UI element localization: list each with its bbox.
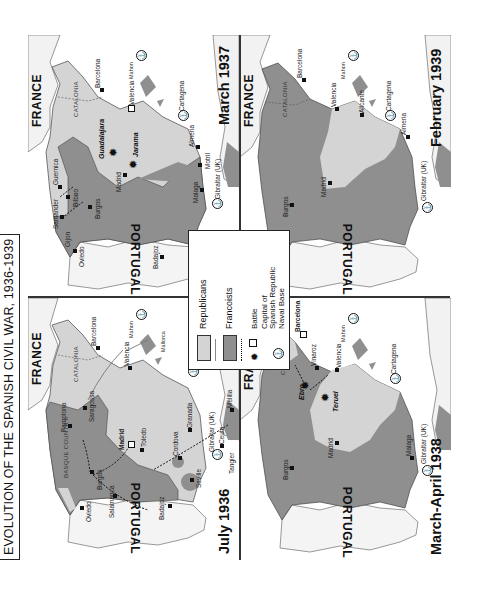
city-label: Pamplona	[60, 403, 67, 432]
city-marker	[100, 88, 104, 92]
period-label: July 1936	[216, 489, 232, 554]
city-marker	[198, 163, 202, 167]
city-marker	[66, 195, 70, 199]
city-marker	[335, 107, 339, 111]
city-marker	[140, 448, 144, 452]
city-label: Gibraltar (UK)	[214, 159, 221, 199]
city-marker	[220, 444, 224, 448]
city-marker	[200, 188, 204, 192]
naval-base-icon: ⚓	[136, 309, 147, 320]
country-label-france: FRANCE	[242, 74, 256, 127]
city-label: Cartagena	[390, 344, 397, 374]
city-label: Ceuta	[218, 427, 225, 444]
country-label-portugal: PORTUGAL	[128, 483, 142, 554]
city-marker	[302, 78, 306, 82]
city-label: Seville	[195, 469, 202, 488]
region-label: CATALONIA	[73, 346, 79, 382]
city-label: Oviedo	[85, 501, 92, 522]
capital-marker	[128, 441, 135, 448]
region-label: CATALONIA	[73, 81, 79, 117]
city-marker	[178, 456, 182, 460]
map-title: EVOLUTION OF THE SPANISH CIVIL WAR, 1936…	[0, 234, 20, 560]
city-marker	[290, 203, 294, 207]
city-marker	[410, 456, 414, 460]
city-label: Santander	[52, 199, 59, 229]
city-marker	[190, 478, 194, 482]
city-label: Motril	[204, 153, 211, 169]
country-label-portugal: PORTUGAL	[340, 487, 354, 558]
city-label: Mahon	[340, 62, 346, 79]
city-label: Valencia	[128, 81, 135, 105]
city-label: Burgos	[94, 198, 101, 219]
country-label-france: FRANCE	[30, 332, 44, 385]
battle-icon: ✹	[249, 353, 260, 361]
city-label: Gijon	[64, 232, 71, 247]
naval-base-icon: ⚓	[178, 110, 189, 121]
naval-base-icon: ⚓	[136, 50, 147, 61]
francoists-swatch	[223, 335, 237, 361]
battle-label: Teruel	[332, 391, 339, 412]
city-label: Toledo	[140, 428, 147, 447]
city-label: Cordova	[172, 431, 179, 456]
legend-label-capital-2: Spanish Republic	[269, 267, 277, 329]
city-marker	[68, 424, 72, 428]
city-label: Barcelona	[94, 59, 101, 88]
country-label-portugal: PORTUGAL	[128, 224, 142, 295]
city-marker	[90, 470, 94, 474]
city-label: Saragossa	[88, 391, 95, 422]
naval-base-icon: ⚓	[390, 373, 401, 384]
battle-label: Guadalajara	[98, 119, 105, 159]
city-label: Badajoz	[152, 246, 159, 270]
city-label: Guernica	[52, 159, 59, 185]
city-label: Cartagena	[385, 81, 392, 111]
city-marker	[196, 145, 200, 149]
city-label: Bilbao	[72, 189, 79, 207]
naval-base-icon: ⚓	[212, 198, 223, 209]
country-label-portugal: PORTUGAL	[340, 224, 354, 295]
city-label: Valencia	[330, 83, 337, 107]
city-marker	[60, 215, 64, 219]
naval-base-icon: ⚓	[422, 202, 433, 213]
city-marker	[315, 366, 319, 370]
city-label: Madrid	[327, 438, 334, 458]
legend-label-naval-base: Naval Base	[278, 288, 286, 329]
city-label: Malaga	[405, 435, 412, 456]
city-marker	[290, 466, 294, 470]
city-label: Barcelona	[296, 49, 303, 78]
city-label: Barcelona	[294, 301, 301, 332]
city-label: Mahon	[340, 325, 346, 342]
city-label: Malaga	[192, 182, 199, 203]
map-legend: Republicans Francoists ✹ Battle Capital …	[188, 230, 290, 370]
city-label: Burgos	[96, 469, 103, 490]
city-label: Valencia	[123, 342, 130, 366]
battle-label: Jarama	[132, 132, 139, 157]
city-marker	[88, 205, 92, 209]
city-label: Tangier	[228, 453, 235, 474]
city-label: Madrid	[115, 172, 122, 192]
city-label: Cartagena	[178, 81, 185, 111]
city-label: Vinaroz	[310, 344, 317, 366]
city-marker	[128, 366, 132, 370]
city-marker	[230, 408, 234, 412]
city-label: Burgos	[282, 459, 289, 480]
region-label: CATALONIA	[282, 81, 288, 117]
legend-label-battle: Battle	[251, 309, 259, 329]
city-marker	[80, 506, 84, 510]
city-marker	[83, 406, 87, 410]
naval-base-icon: ⚓	[348, 50, 359, 61]
city-marker	[160, 255, 164, 259]
city-label: Gibraltar (UK)	[420, 424, 427, 464]
city-label: Madrid	[320, 177, 327, 197]
naval-base-icon: ⚓	[385, 110, 396, 121]
city-label: Gibraltar (UK)	[420, 161, 427, 201]
capital-marker	[128, 105, 135, 112]
city-label: Mahon	[128, 62, 134, 79]
city-label: Almeria	[188, 125, 195, 147]
period-label: March-April 1938	[428, 438, 444, 555]
city-label: Badajoz	[158, 497, 165, 521]
city-marker	[123, 173, 127, 177]
city-label: Almeria	[400, 113, 407, 135]
city-marker	[73, 249, 77, 253]
map-sheet: EVOLUTION OF THE SPANISH CIVIL WAR, 1936…	[28, 35, 450, 560]
francoist-arrow-icon	[241, 339, 242, 361]
